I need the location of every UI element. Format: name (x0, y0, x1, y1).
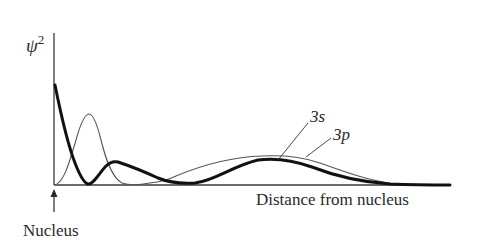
y-axis-label: ψ2 (26, 32, 44, 56)
leader-line-3s (278, 123, 308, 160)
nucleus-label: Nucleus (23, 221, 79, 240)
curve-3s (55, 85, 450, 185)
x-axis-label: Distance from nucleus (256, 190, 409, 209)
leader-line-3p (306, 138, 331, 157)
label-3s: 3s (309, 107, 326, 126)
label-3p: 3p (332, 125, 350, 144)
curve-3p (54, 114, 450, 185)
radial-probability-chart: ψ2 3s 3p Distance from nucleus Nucleus (0, 0, 478, 244)
arrowhead-icon (51, 189, 58, 197)
